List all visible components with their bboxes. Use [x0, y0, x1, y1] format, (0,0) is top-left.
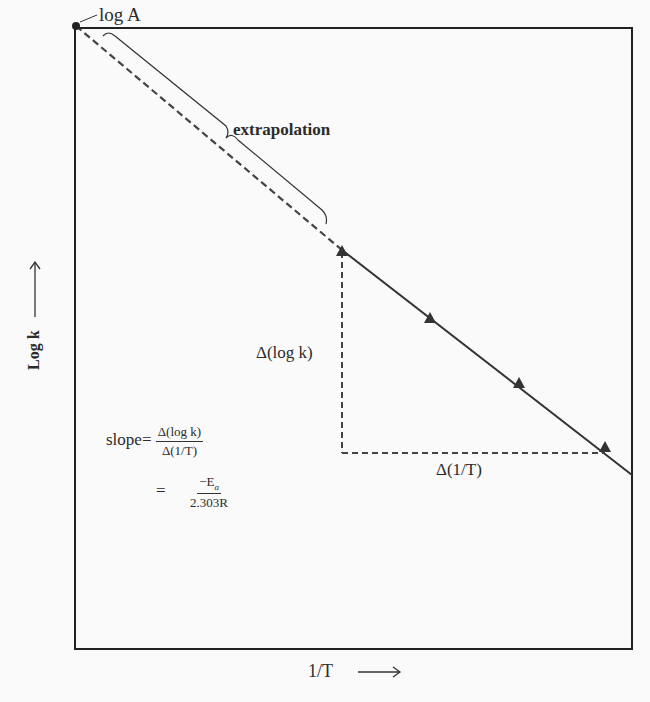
fit-line — [342, 250, 632, 475]
slope-formula-line1: slope= Δ(log k) Δ(1/T) — [106, 424, 203, 459]
y-axis-label: Log k — [25, 330, 43, 370]
slope-fraction-2: −Ea 2.303R — [188, 474, 230, 511]
frac2-denominator: 2.303R — [188, 494, 230, 511]
slope-formula-line2: = −Ea 2.303R — [156, 474, 230, 511]
plot-frame — [75, 28, 632, 649]
intercept-leader — [80, 15, 97, 22]
intercept-point — [72, 22, 80, 30]
delta-inverse-t-label: Δ(1/T) — [436, 460, 482, 480]
frac1-denominator: Δ(1/T) — [160, 442, 199, 459]
frac1-numerator: Δ(log k) — [156, 424, 203, 442]
data-point-2 — [424, 312, 436, 323]
extrapolation-label: extrapolation — [233, 120, 330, 140]
data-point-3 — [513, 377, 525, 388]
data-point-4 — [599, 441, 611, 452]
equals-sign: = — [156, 481, 166, 500]
delta-log-k-label: Δ(log k) — [256, 343, 313, 363]
intercept-label: log A — [99, 4, 141, 26]
arrhenius-plot — [0, 0, 650, 702]
frac2-numerator: −Ea — [197, 474, 221, 494]
slope-lhs: slope= — [106, 430, 151, 449]
slope-fraction-1: Δ(log k) Δ(1/T) — [156, 424, 203, 459]
x-axis-label: 1/T — [308, 661, 333, 682]
